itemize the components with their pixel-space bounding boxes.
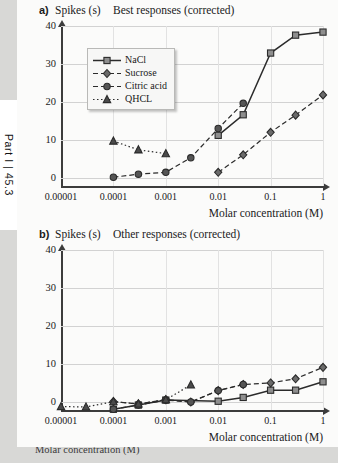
figure-page: Part I | 45.3 a) Spikes (s) Best respons… [0, 0, 338, 463]
panel-a-label: a) [39, 4, 49, 16]
series-line-qhcl [61, 385, 191, 407]
data-point-diamond [319, 363, 326, 371]
legend-label: NaCl [125, 54, 146, 65]
legend-item-qhcl: QHCL [92, 92, 167, 105]
data-point-square [320, 379, 326, 385]
panel-b-title: Other responses (corrected) [113, 228, 240, 240]
data-point-circle [135, 171, 141, 177]
panel-b-label: b) [39, 228, 49, 240]
data-point-circle [104, 83, 110, 89]
data-point-square [215, 132, 221, 138]
data-point-circle [110, 406, 116, 412]
legend-label: Citric acid [125, 80, 167, 91]
data-point-circle [110, 174, 116, 180]
data-point-diamond [215, 168, 222, 176]
legend-marker-triangle-icon [92, 92, 122, 105]
data-point-square [293, 387, 299, 393]
y-tick-label: 20 [46, 321, 57, 332]
panel-a: a) Spikes (s) Best responses (corrected)… [17, 0, 338, 224]
panel-b-ylabel: Spikes (s) [55, 228, 101, 240]
legend-marker-square-icon [92, 53, 122, 66]
data-point-diamond [103, 70, 110, 78]
data-point-diamond [319, 91, 326, 99]
panel-a-x-axis-title: Molar concentration (M) [209, 207, 323, 219]
panel-b-plot: Molar concentration (M) 0102030400.00001… [61, 250, 323, 410]
data-point-circle [240, 100, 246, 106]
data-point-circle [188, 155, 194, 161]
panel-b: b) Spikes (s) Other responses (corrected… [17, 224, 338, 447]
series-line-citric-acid [113, 384, 243, 409]
data-point-triangle [110, 137, 117, 144]
data-point-circle [188, 399, 194, 405]
legend-marker-diamond-icon [92, 66, 122, 79]
data-point-square [268, 50, 274, 56]
y-tick-label: 40 [46, 21, 57, 32]
data-point-triangle [187, 381, 194, 388]
data-point-triangle [135, 146, 142, 153]
y-tick-label: 40 [46, 245, 57, 256]
legend-label: Sucrose [125, 67, 157, 78]
panel-a-header: a) Spikes (s) Best responses (corrected) [17, 4, 338, 20]
y-tick-label: 0 [51, 397, 56, 408]
data-point-square [320, 29, 326, 35]
y-tick-label: 30 [46, 59, 57, 70]
y-tick-label: 0 [51, 173, 56, 184]
caption-strip: Molar concentration (M) [17, 447, 338, 463]
data-point-square [293, 32, 299, 38]
legend-item-nacl: NaCl [92, 53, 167, 66]
panel-a-ylabel: Spikes (s) [55, 4, 101, 16]
data-point-triangle [82, 403, 89, 410]
panel-a-title: Best responses (corrected) [113, 4, 234, 16]
y-tick-label: 10 [46, 135, 57, 146]
data-point-circle [240, 381, 246, 387]
y-tick-label: 30 [46, 283, 57, 294]
series-layer [61, 250, 335, 422]
series-line-citric-acid [113, 103, 243, 177]
data-point-circle [215, 125, 221, 131]
data-point-square [240, 112, 246, 118]
legend-item-sucrose: Sucrose [92, 66, 167, 79]
panel-a-plot: Molar concentration (M) 0102030400.00001… [61, 26, 323, 186]
data-point-circle [163, 169, 169, 175]
running-head: Part I | 45.3 [0, 100, 17, 230]
data-point-square [104, 57, 110, 63]
data-point-square [268, 387, 274, 393]
caption-partial-text: Molar concentration (M) [35, 447, 139, 455]
y-tick-label: 20 [46, 97, 57, 108]
y-tick-label: 10 [46, 359, 57, 370]
panel-b-x-axis-title: Molar concentration (M) [209, 431, 323, 443]
data-point-diamond [292, 111, 299, 119]
legend-label: QHCL [125, 93, 152, 104]
legend-item-citric-acid: Citric acid [92, 79, 167, 92]
data-point-square [215, 398, 221, 404]
legend-marker-circle-icon [92, 79, 122, 92]
data-point-square [240, 394, 246, 400]
data-point-triangle [162, 150, 169, 157]
data-point-diamond [292, 375, 299, 383]
figure-plate: a) Spikes (s) Best responses (corrected)… [17, 0, 338, 447]
data-point-diamond [267, 379, 274, 387]
panel-b-header: b) Spikes (s) Other responses (corrected… [17, 228, 338, 244]
running-head-text: Part I | 45.3 [3, 134, 15, 196]
chart-legend: NaClSucroseCitric acidQHCL [87, 48, 175, 110]
series-line-nacl [218, 32, 323, 135]
data-point-circle [215, 387, 221, 393]
data-point-diamond [267, 128, 274, 136]
data-point-triangle [57, 403, 64, 410]
